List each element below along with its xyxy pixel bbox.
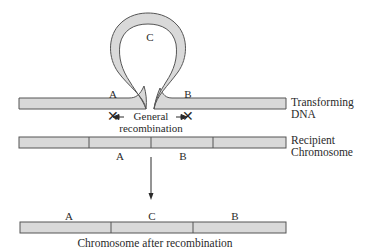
recipient-chromosome-label-line2: Chromosome: [291, 146, 353, 158]
transforming-dna-label-line2: DNA: [291, 108, 316, 120]
transforming-gene-a-label: A: [109, 89, 117, 100]
recipient-chromosome: [19, 137, 286, 148]
transforming-gene-c-label: C: [146, 32, 153, 43]
crossover-right-marker-icon: ✕: [182, 110, 194, 124]
crossover-left-marker-icon: ✕: [107, 110, 119, 124]
recipient-gene-b-label: B: [179, 151, 186, 162]
result-gene-a-label: A: [65, 211, 73, 222]
result-chromosome: [20, 222, 286, 233]
transforming-dna-left-segment: [19, 86, 146, 109]
recipient-gene-a-label: A: [116, 151, 124, 162]
transforming-dna-right-segment: [154, 88, 286, 109]
transforming-dna-loop: [111, 13, 186, 109]
result-gene-c-label: C: [148, 211, 155, 222]
recombination-diagram: A C B Transforming DNA ✕ ✕ General recom…: [0, 0, 372, 252]
result-caption: Chromosome after recombination: [77, 238, 232, 249]
general-recombination-label-line2: recombination: [119, 123, 183, 134]
diagram-graphics: [0, 0, 372, 252]
transforming-gene-b-label: B: [184, 89, 191, 100]
general-recombination-label-line1: General: [134, 111, 169, 122]
recipient-chromosome-label-line1: Recipient: [291, 134, 335, 146]
down-arrow-icon: [149, 157, 154, 200]
transforming-dna: [19, 13, 286, 109]
result-gene-b-label: B: [231, 211, 238, 222]
transforming-dna-label-line1: Transforming: [291, 96, 354, 108]
